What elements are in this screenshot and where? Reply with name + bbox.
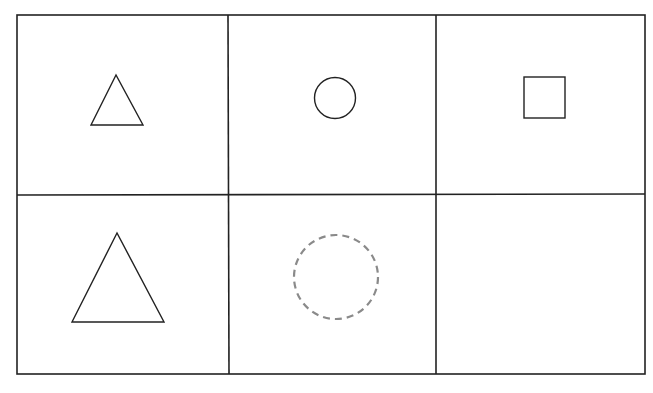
grid-divider-h [17, 194, 645, 195]
shape-matrix [0, 0, 653, 393]
cell-r2c2 [294, 235, 378, 319]
cell-r2c1 [72, 233, 164, 322]
cell-r1c1 [91, 75, 143, 125]
cell-r1c3 [524, 77, 565, 118]
grid [17, 15, 645, 374]
cell-r1c2 [315, 78, 356, 119]
large-triangle-icon [72, 233, 164, 322]
small-circle-icon [315, 78, 356, 119]
small-square-icon [524, 77, 565, 118]
dashed-circle-icon [294, 235, 378, 319]
small-triangle-icon [91, 75, 143, 125]
